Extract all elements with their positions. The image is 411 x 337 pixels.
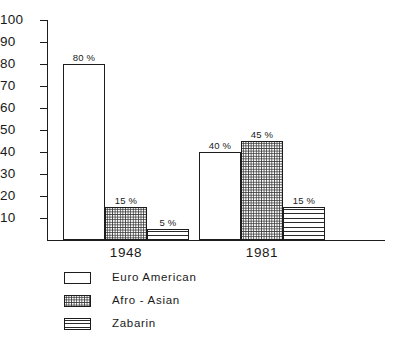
y-axis-tick — [40, 196, 47, 197]
legend-item: Euro American — [64, 268, 197, 288]
y-axis-tick — [40, 174, 47, 175]
y-axis-tick-label: 100 — [0, 13, 36, 27]
y-axis-tick-label: 60 — [0, 101, 36, 115]
legend-label: Euro American — [112, 272, 197, 284]
y-axis-tick — [40, 20, 47, 21]
bar-1981-zabarin — [283, 207, 325, 240]
y-axis-tick-label: 10 — [0, 211, 36, 225]
y-axis-line — [47, 20, 48, 241]
x-axis-label-1948: 1948 — [110, 246, 142, 260]
bar-value-label: 5 % — [160, 218, 177, 228]
legend-label: Afro - Asian — [112, 295, 180, 307]
bar-value-label: 15 % — [115, 196, 137, 206]
y-axis-tick — [40, 152, 47, 153]
bar-value-label: 80 % — [73, 53, 95, 63]
y-axis-tick-label: 90 — [0, 35, 36, 49]
bar-1948-euro-american — [63, 64, 105, 240]
y-axis-tick-label: 50 — [0, 123, 36, 137]
chart-legend: Euro AmericanAfro - AsianZabarin — [64, 268, 197, 337]
y-axis-tick — [40, 42, 47, 43]
y-axis-tick — [40, 86, 47, 87]
y-axis-tick-label: 40 — [0, 145, 36, 159]
y-axis-tick-label: 70 — [0, 79, 36, 93]
bar-value-label: 45 % — [251, 130, 273, 140]
x-axis-label-1981: 1981 — [246, 246, 278, 260]
y-axis-tick — [40, 218, 47, 219]
bar-1981-euro-american — [199, 152, 241, 240]
x-axis-line — [47, 240, 385, 241]
y-axis-tick-label: 30 — [0, 167, 36, 181]
bar-value-label: 15 % — [293, 196, 315, 206]
legend-item: Afro - Asian — [64, 291, 197, 311]
y-axis-tick — [40, 108, 47, 109]
bar-value-label: 40 % — [209, 141, 231, 151]
y-axis-tick — [40, 64, 47, 65]
bar-chart-figure: 102030405060708090100 80 %15 %5 %40 %45 … — [0, 0, 411, 337]
y-axis-tick-label: 20 — [0, 189, 36, 203]
legend-item: Zabarin — [64, 314, 197, 334]
bar-1981-afro---asian — [241, 141, 283, 240]
y-axis-tick-label: 80 — [0, 57, 36, 71]
legend-swatch-hlines — [64, 318, 91, 330]
bar-1948-afro---asian — [105, 207, 147, 240]
legend-swatch-dots — [64, 295, 91, 307]
legend-label: Zabarin — [112, 318, 156, 330]
legend-swatch-open — [64, 272, 91, 284]
bar-1948-zabarin — [147, 229, 189, 240]
y-axis-tick — [40, 130, 47, 131]
